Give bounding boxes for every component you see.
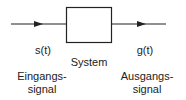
output-caption-line1: Ausgangs- <box>114 70 180 82</box>
input-caption-line2: signal <box>10 83 74 95</box>
output-arrow-icon <box>137 21 146 27</box>
output-caption-line2: signal <box>114 83 180 95</box>
input-caption-line1: Eingangs- <box>10 70 74 82</box>
system-label: System <box>64 56 114 68</box>
input-arrow-icon <box>34 21 43 27</box>
system-box <box>67 8 112 43</box>
input-signal-label: s(t) <box>28 44 58 56</box>
output-signal-label: g(t) <box>130 44 160 56</box>
